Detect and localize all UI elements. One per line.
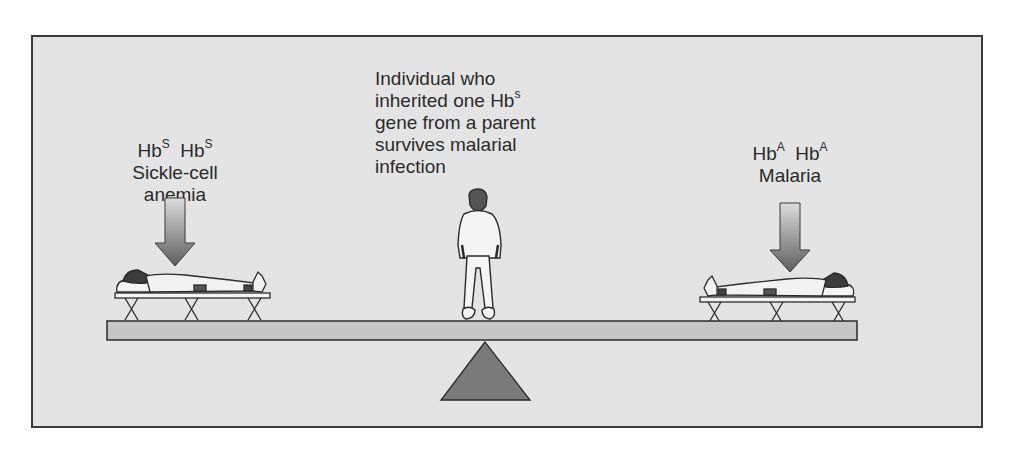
standing-person-icon: [458, 189, 501, 319]
down-arrow-icon-left: [155, 198, 195, 266]
down-arrow-icon-right: [770, 203, 810, 272]
patient-cot-icon-right: [700, 273, 855, 324]
fulcrum-triangle: [441, 342, 530, 400]
seesaw-beam: [107, 321, 857, 340]
diagram-art: [0, 0, 1012, 449]
patient-cot-icon-left: [115, 270, 270, 320]
